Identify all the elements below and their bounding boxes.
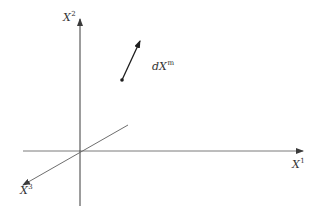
vector-tail-dot — [120, 78, 124, 82]
x1-label-base: X — [292, 158, 300, 171]
vector-arrow — [122, 41, 140, 80]
axes-layer — [23, 19, 303, 206]
x3-axis-line — [23, 125, 128, 185]
x2-label-superscript: 2 — [71, 10, 75, 18]
x1-label-superscript: 1 — [300, 157, 304, 165]
vector-label-superscript: m — [167, 59, 174, 67]
x1-axis-label: X1 — [292, 158, 305, 170]
coordinate-diagram — [0, 0, 320, 216]
x3-axis-label: X3 — [20, 184, 33, 196]
x3-label-superscript: 3 — [28, 183, 32, 191]
vector-label-base: dX — [152, 60, 167, 73]
vector-layer — [120, 41, 140, 82]
vector-label: dXm — [152, 60, 174, 72]
x2-label-base: X — [63, 11, 71, 24]
x3-label-base: X — [20, 184, 28, 197]
x2-axis-label: X2 — [63, 11, 76, 23]
